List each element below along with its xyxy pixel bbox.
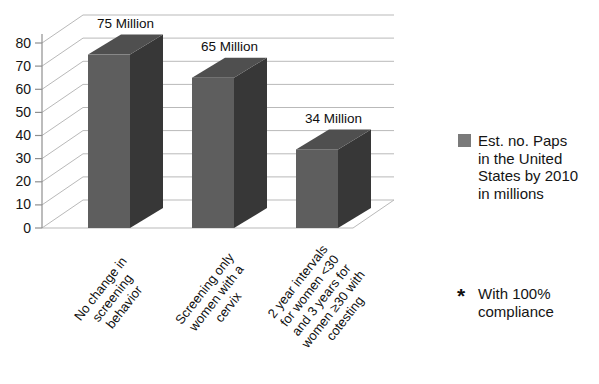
bar-2-front-face	[192, 78, 234, 228]
legend: Est. no. Paps in the United States by 20…	[458, 132, 578, 202]
bar-1-front-face	[88, 55, 130, 228]
y-tick-label-30: 30	[15, 150, 31, 166]
footnote: * With 100% compliance	[457, 284, 554, 320]
y-tick-label-70: 70	[15, 58, 31, 74]
bar-group-1: 75 Million	[88, 16, 163, 228]
legend-line-1: Est. no. Paps	[478, 132, 567, 149]
y-tick-label-0: 0	[23, 220, 31, 236]
bar-3-front-face	[296, 149, 338, 228]
bar-3-value-label: 34 Million	[305, 111, 362, 126]
y-axis: 80 70 60 50 40 30 20 10 0	[15, 34, 42, 236]
bar-group-3: 34 Million	[296, 111, 371, 229]
category-label-3: 2 year intervals for women <30 and 3 yea…	[262, 240, 379, 361]
bar-2-value-label: 65 Million	[201, 39, 258, 54]
legend-line-2: in the United	[478, 150, 562, 167]
category-label-1: No change in screening behavior	[71, 254, 154, 342]
y-tick-label-10: 10	[15, 196, 31, 212]
legend-marker-icon	[458, 134, 471, 147]
y-tick-label-80: 80	[15, 35, 31, 51]
footnote-line-1: With 100%	[478, 285, 551, 302]
bar-2-side-face	[234, 58, 267, 228]
y-tick-label-50: 50	[15, 104, 31, 120]
bar-1-value-label: 75 Million	[97, 16, 154, 31]
y-tick-label-40: 40	[15, 127, 31, 143]
legend-line-4: in millions	[478, 185, 544, 202]
footnote-line-2: compliance	[478, 303, 554, 320]
category-label-2: Screening only women with a cervix	[172, 250, 261, 346]
slide-canvas: 80 70 60 50 40 30 20 10 0 75 Million 65 …	[0, 0, 599, 384]
y-tick-label-60: 60	[15, 81, 31, 97]
bar-1-side-face	[130, 35, 163, 228]
legend-line-3: States by 2010	[478, 167, 578, 184]
bar-group-2: 65 Million	[192, 39, 267, 228]
y-tick-label-20: 20	[15, 173, 31, 189]
asterisk-icon: *	[457, 284, 466, 307]
bar-chart: 80 70 60 50 40 30 20 10 0 75 Million 65 …	[0, 0, 599, 384]
